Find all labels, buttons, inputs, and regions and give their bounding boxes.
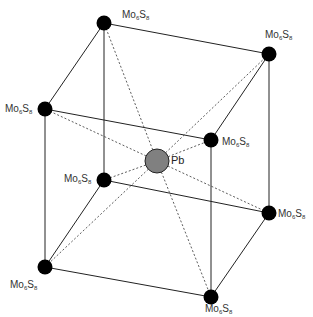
mo6s8-cluster-node: [38, 260, 53, 275]
cube-edge: [211, 213, 269, 297]
mo6s8-label: Mo6S8: [222, 137, 249, 148]
mo6s8-cluster-node: [38, 102, 53, 117]
mo6s8-label: Mo6S8: [122, 10, 149, 21]
cube-edge: [45, 109, 211, 140]
pb-bond-line: [157, 161, 211, 297]
cube-edge: [45, 267, 211, 297]
mo6s8-label: Mo6S8: [265, 30, 292, 41]
pb-atom: [145, 149, 169, 173]
mo6s8-cluster-node: [204, 133, 219, 148]
cube-edge: [45, 180, 104, 267]
mo6s8-label: Mo6S8: [205, 304, 232, 315]
pb-bond-line: [45, 109, 157, 161]
pb-label: Pb: [171, 155, 184, 166]
pb-atom-circle: [145, 149, 169, 173]
mo6s8-cluster-node: [97, 16, 112, 31]
cube-edge: [104, 23, 269, 54]
mo6s8-label: Mo6S8: [5, 104, 32, 115]
mo6s8-label: Mo6S8: [64, 174, 91, 185]
unit-cell-diagram: [0, 0, 313, 317]
mo6s8-label: Mo6S8: [278, 209, 305, 220]
mo6s8-cluster-node: [262, 47, 277, 62]
pb-bond-line: [157, 161, 269, 213]
mo6s8-cluster-node: [97, 173, 112, 188]
cube-edge: [104, 180, 269, 213]
mo6s8-cluster-node: [262, 206, 277, 221]
mo6s8-label: Mo6S8: [10, 280, 37, 291]
cube-edge: [211, 54, 269, 140]
cube-edge: [45, 23, 104, 109]
